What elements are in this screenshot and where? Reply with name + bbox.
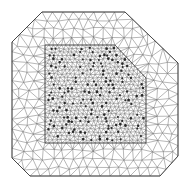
mesh-edges: [12, 12, 178, 176]
mesh-diagram: [0, 0, 191, 187]
triangle-edges: [12, 12, 178, 176]
mesh-canvas: [0, 0, 191, 187]
outer-domain-boundary: [12, 12, 178, 176]
outer-domain-outline: [12, 12, 178, 176]
